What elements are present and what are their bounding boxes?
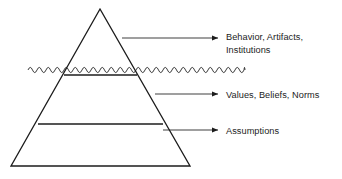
diagram-canvas: Behavior, Artifacts, Institutions Values… (0, 0, 342, 179)
pyramid-outline (11, 9, 190, 166)
layer-dividers (38, 75, 163, 124)
label-top-line-2: Institutions (226, 44, 303, 57)
label-bottom-line-1: Assumptions (226, 125, 279, 138)
label-assumptions: Assumptions (226, 125, 279, 138)
label-middle-line-1: Values, Beliefs, Norms (226, 89, 319, 102)
callout-arrows (122, 38, 218, 130)
label-values-beliefs-norms: Values, Beliefs, Norms (226, 89, 319, 102)
label-behavior-artifacts-institutions: Behavior, Artifacts, Institutions (226, 31, 303, 56)
label-top-line-1: Behavior, Artifacts, (226, 31, 303, 44)
